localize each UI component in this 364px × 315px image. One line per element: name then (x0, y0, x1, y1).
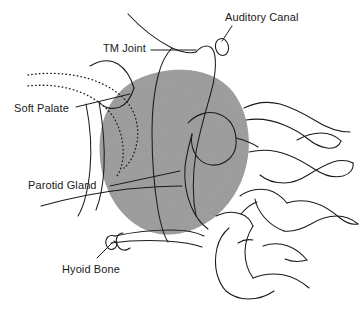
anatomy-illustration (0, 0, 364, 315)
vertebra-c4-bottom (226, 291, 274, 299)
leader-hyoid-bone (97, 242, 113, 258)
parotid-gland-mass (100, 70, 249, 235)
label-parotid-gland: Parotid Gland (28, 180, 97, 191)
hyoid-lower-edge (111, 241, 202, 247)
figure-canvas: Auditory Canal TM Joint Soft Palate Paro… (0, 0, 364, 315)
vertebra-c4-spinous (216, 228, 230, 291)
label-soft-palate: Soft Palate (14, 103, 69, 114)
vertebra-c4-mid-line (263, 244, 307, 260)
label-auditory-canal: Auditory Canal (225, 12, 299, 23)
label-hyoid-bone: Hyoid Bone (62, 264, 120, 275)
vertebra-c3-left (255, 199, 284, 231)
vertebra-c3-lower (284, 216, 358, 231)
vertebra-c4-lower-process (253, 274, 309, 288)
vertebra-c3-process (287, 201, 358, 225)
vertebra-c4-mid-lower (285, 259, 307, 261)
vertebra-notch-b (238, 240, 253, 243)
label-tm-joint: TM Joint (103, 43, 146, 54)
vertebra-c4-body (245, 226, 253, 278)
vertebra-c1-lower (297, 133, 341, 141)
pharynx-anterior-wall (78, 104, 91, 216)
vertebra-c4-top (216, 212, 253, 226)
vertebra-c2-upper (249, 150, 353, 176)
vertebra-c3-top (240, 189, 287, 203)
vertebra-c1-process (244, 102, 350, 132)
maxilla-curve (90, 61, 134, 88)
vertebra-joint-notch-a (241, 202, 257, 214)
leader-auditory-canal (222, 26, 232, 41)
